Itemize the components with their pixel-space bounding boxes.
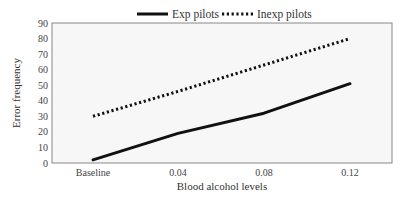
- plot-area: [52, 23, 392, 163]
- y-tick-label: 40: [38, 95, 48, 106]
- y-tick-label: 90: [38, 18, 48, 29]
- y-axis-label: Error frequency: [10, 58, 22, 128]
- y-tick-label: 0: [43, 158, 48, 169]
- y-tick-label: 60: [38, 64, 48, 75]
- x-axis-label: Blood alcohol levels: [177, 180, 267, 192]
- y-axis-ticks: 0102030405060708090: [38, 18, 48, 169]
- legend-label-inexp: Inexp pilots: [257, 8, 312, 21]
- y-tick-label: 50: [38, 80, 48, 91]
- y-tick-label: 30: [38, 111, 48, 122]
- y-tick-label: 10: [38, 142, 48, 153]
- legend: Exp pilots Inexp pilots: [137, 8, 312, 21]
- x-tick-label: 0.08: [255, 167, 273, 178]
- y-tick-label: 70: [38, 49, 48, 60]
- x-tick-label: 0.12: [341, 167, 359, 178]
- y-tick-label: 80: [38, 33, 48, 44]
- x-axis-ticks: Baseline0.040.080.12: [76, 167, 359, 178]
- y-tick-label: 20: [38, 126, 48, 137]
- x-tick-label: 0.04: [169, 167, 187, 178]
- legend-label-exp: Exp pilots: [172, 8, 219, 21]
- line-chart: Exp pilots Inexp pilots 0102030405060708…: [0, 0, 412, 199]
- x-tick-label: Baseline: [76, 167, 111, 178]
